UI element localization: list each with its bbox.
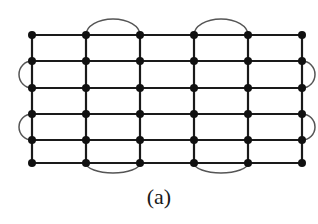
node-5-3 [190, 159, 198, 167]
node-1-0 [28, 57, 36, 65]
node-3-4 [244, 110, 252, 118]
node-5-5 [298, 159, 306, 167]
node-2-4 [244, 84, 252, 92]
node-0-1 [82, 31, 90, 39]
grid-nodes [28, 31, 306, 167]
node-0-5 [298, 31, 306, 39]
node-3-2 [136, 110, 144, 118]
node-0-4 [244, 31, 252, 39]
node-0-2 [136, 31, 144, 39]
node-0-0 [28, 31, 36, 39]
wraparound-arcs [19, 19, 315, 173]
node-3-3 [190, 110, 198, 118]
node-2-5 [298, 84, 306, 92]
top-arc-1 [194, 19, 248, 35]
node-1-1 [82, 57, 90, 65]
left-arc-4 [19, 61, 32, 88]
node-3-5 [298, 110, 306, 118]
node-4-3 [190, 136, 198, 144]
left-arc-5 [19, 114, 32, 140]
bottom-arc-3 [194, 163, 248, 173]
bottom-arc-2 [86, 163, 140, 173]
right-arc-7 [302, 114, 315, 140]
node-4-4 [244, 136, 252, 144]
right-arc-6 [302, 61, 315, 88]
node-3-0 [28, 110, 36, 118]
node-2-2 [136, 84, 144, 92]
grid-edges [32, 35, 302, 163]
node-5-1 [82, 159, 90, 167]
node-1-5 [298, 57, 306, 65]
node-1-2 [136, 57, 144, 65]
node-2-0 [28, 84, 36, 92]
node-4-0 [28, 136, 36, 144]
node-5-4 [244, 159, 252, 167]
node-1-4 [244, 57, 252, 65]
node-5-0 [28, 159, 36, 167]
node-4-1 [82, 136, 90, 144]
node-4-2 [136, 136, 144, 144]
top-arc-0 [86, 19, 140, 35]
node-5-2 [136, 159, 144, 167]
node-3-1 [82, 110, 90, 118]
node-0-3 [190, 31, 198, 39]
node-2-1 [82, 84, 90, 92]
node-2-3 [190, 84, 198, 92]
figure-caption: (a) [0, 184, 318, 210]
node-4-5 [298, 136, 306, 144]
node-1-3 [190, 57, 198, 65]
